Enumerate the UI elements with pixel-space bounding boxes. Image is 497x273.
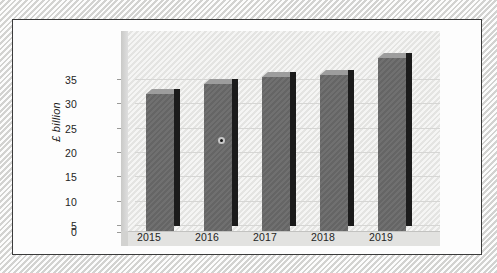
y-axis-tick-25: 25 [51, 123, 77, 135]
x-axis-label-2019: 2019 [353, 231, 409, 243]
bar-side-face [232, 79, 238, 226]
y-axis-tick-35: 35 [51, 74, 77, 86]
x-axis-label-2017: 2017 [237, 231, 293, 243]
y-axis-tick-15: 15 [51, 171, 77, 183]
bar-front-face [146, 94, 174, 231]
y-axis-tick-20: 20 [51, 147, 77, 159]
y-axis-tick-30: 30 [51, 98, 77, 110]
bar-front-face [204, 84, 232, 231]
x-axis-label-2016: 2016 [179, 231, 235, 243]
bar-front-face [262, 77, 290, 231]
bar-side-face [290, 72, 296, 226]
bar-chart: £ billion 35 30 25 20 15 10 5 0 [13, 20, 481, 254]
scan-artifact-dot [218, 137, 225, 144]
bar-front-face [378, 58, 406, 232]
chart-frame: £ billion 35 30 25 20 15 10 5 0 [12, 19, 482, 255]
bar-side-face [406, 53, 412, 227]
y-axis-tick-0: 0 [51, 226, 77, 238]
x-axis-label-2015: 2015 [121, 231, 177, 243]
bar-side-face [348, 70, 354, 226]
y-axis-tick-10: 10 [51, 196, 77, 208]
bar-side-face [174, 89, 180, 226]
plot-left-wall [121, 31, 128, 232]
plot-area [121, 31, 440, 246]
bar-front-face [320, 75, 348, 231]
x-axis-label-2018: 2018 [295, 231, 351, 243]
